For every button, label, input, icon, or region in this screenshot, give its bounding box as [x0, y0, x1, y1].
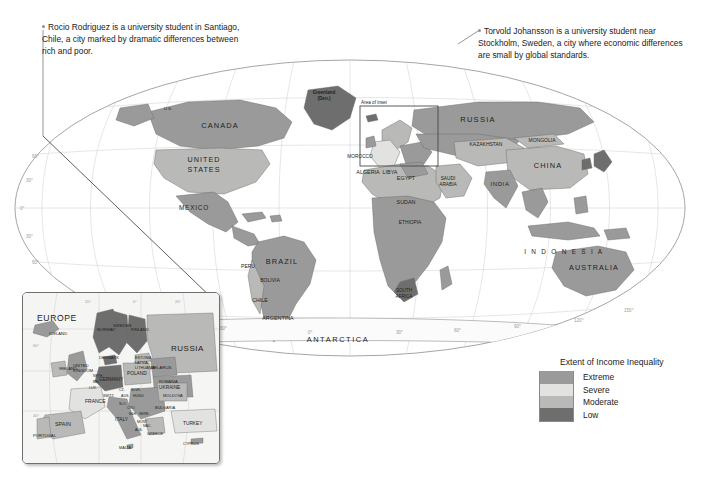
svg-text:B&H: B&H — [129, 412, 137, 416]
svg-text:PORTUGAL: PORTUGAL — [33, 433, 57, 438]
svg-text:PERU: PERU — [241, 263, 255, 269]
svg-text:ALB.: ALB. — [135, 428, 142, 432]
svg-text:20°: 20° — [85, 299, 91, 304]
callout-dot-icon — [42, 25, 45, 28]
svg-text:SAUDI: SAUDI — [441, 176, 456, 181]
svg-text:AUS.: AUS. — [121, 394, 129, 398]
svg-text:NETH.: NETH. — [93, 374, 103, 378]
legend-item-moderate: Moderate — [539, 396, 689, 409]
legend-item-extreme: Extreme — [539, 371, 689, 384]
legend-label-moderate: Moderate — [583, 397, 618, 407]
svg-text:AUSTRALIA: AUSTRALIA — [569, 263, 619, 272]
svg-text:CZ.: CZ. — [119, 388, 125, 392]
europe-inset-svg: 20° 0° 20° 60° 40° — [23, 293, 219, 463]
svg-text:0°: 0° — [20, 206, 25, 211]
svg-text:I N D O N E S I A: I N D O N E S I A — [524, 248, 604, 255]
svg-text:0°: 0° — [308, 330, 313, 335]
svg-text:STATES: STATES — [188, 165, 221, 174]
svg-text:30°: 30° — [26, 234, 33, 239]
svg-text:SWEDEN: SWEDEN — [113, 323, 131, 328]
svg-text:RUSSIA: RUSSIA — [460, 115, 495, 124]
callout-torvold: Torvold Johansson is a university studen… — [478, 26, 693, 62]
svg-text:DENMARK: DENMARK — [99, 355, 119, 360]
svg-text:60°: 60° — [454, 328, 461, 333]
svg-text:MONGOLIA: MONGOLIA — [529, 137, 557, 143]
callout-dot-icon — [478, 29, 481, 32]
svg-text:ETHIOPIA: ETHIOPIA — [399, 220, 422, 225]
svg-text:AFRICA: AFRICA — [396, 294, 414, 299]
svg-text:MOROCCO: MOROCCO — [347, 154, 373, 159]
svg-text:UKRAINE: UKRAINE — [159, 385, 180, 390]
svg-text:CYPRUS: CYPRUS — [183, 442, 199, 446]
svg-text:ESTONIA: ESTONIA — [135, 356, 152, 360]
svg-text:KINGDOM: KINGDOM — [73, 368, 94, 373]
svg-text:LIBYA: LIBYA — [383, 169, 398, 175]
svg-text:BULGARIA: BULGARIA — [155, 405, 176, 410]
svg-text:150°: 150° — [624, 308, 634, 313]
svg-text:Greenland: Greenland — [313, 90, 336, 95]
legend-swatch-low — [539, 408, 574, 422]
svg-text:SPAIN: SPAIN — [55, 421, 71, 427]
legend: Extent of Income Inequality Extreme Seve… — [539, 357, 689, 421]
svg-text:(Den.): (Den.) — [317, 96, 330, 101]
svg-text:SUDAN: SUDAN — [397, 199, 416, 205]
svg-text:LITHUANIA: LITHUANIA — [135, 366, 155, 370]
svg-text:BEL.: BEL. — [93, 380, 100, 384]
svg-text:RUSSIA: RUSSIA — [171, 344, 204, 353]
svg-text:ITALY: ITALY — [115, 416, 129, 422]
callout-torvold-text: Torvold Johansson is a university studen… — [478, 26, 683, 60]
svg-text:60°: 60° — [32, 260, 39, 265]
svg-text:MALTA: MALTA — [119, 446, 132, 450]
legend-swatch-extreme — [539, 371, 574, 384]
legend-label-low: Low — [583, 410, 598, 420]
svg-text:EGYPT: EGYPT — [397, 175, 416, 181]
callout-rocio: Rocio Rodriguez is a university student … — [42, 22, 247, 58]
svg-text:TURKEY: TURKEY — [183, 421, 203, 426]
svg-text:BOLIVIA: BOLIVIA — [260, 277, 280, 283]
callout-rocio-text: Rocio Rodriguez is a university student … — [42, 22, 239, 56]
svg-text:120°: 120° — [574, 318, 584, 323]
svg-text:ARABIA: ARABIA — [439, 182, 457, 187]
svg-text:GREECE: GREECE — [147, 432, 164, 436]
svg-text:90°: 90° — [514, 324, 521, 329]
svg-text:ICELAND: ICELAND — [49, 331, 67, 336]
svg-text:KAZAKHSTAN: KAZAKHSTAN — [470, 141, 503, 147]
legend-label-severe: Severe — [583, 385, 610, 395]
svg-text:INDIA: INDIA — [490, 181, 509, 187]
svg-text:CRO.: CRO. — [127, 406, 136, 410]
svg-text:0°: 0° — [133, 299, 137, 304]
svg-text:MEXICO: MEXICO — [179, 204, 209, 211]
svg-text:SLVK.: SLVK. — [131, 388, 141, 392]
svg-text:FINLAND: FINLAND — [131, 327, 149, 332]
svg-text:60°: 60° — [32, 154, 39, 159]
svg-text:UNITED: UNITED — [188, 155, 221, 164]
svg-text:CHILE: CHILE — [252, 297, 268, 303]
svg-text:60°: 60° — [220, 326, 227, 331]
svg-text:40°: 40° — [33, 413, 39, 418]
legend-swatch-severe — [539, 384, 574, 397]
svg-text:FRANCE: FRANCE — [85, 398, 106, 404]
svg-text:20°: 20° — [175, 299, 181, 304]
legend-item-low: Low — [539, 409, 689, 422]
svg-text:ARGENTINA: ARGENTINA — [262, 315, 294, 321]
leader-line-torvold — [458, 31, 478, 44]
svg-text:LUX.: LUX. — [89, 386, 97, 390]
svg-text:U.S.: U.S. — [164, 106, 173, 111]
svg-text:ANTARCTICA: ANTARCTICA — [307, 335, 370, 344]
svg-text:EUROPE: EUROPE — [37, 313, 77, 323]
svg-text:30°: 30° — [26, 178, 33, 183]
legend-item-severe: Severe — [539, 384, 689, 397]
legend-label-extreme: Extreme — [583, 372, 614, 382]
svg-text:SERB.: SERB. — [139, 412, 149, 416]
legend-swatch-moderate — [539, 396, 574, 409]
svg-text:SWITZ.: SWITZ. — [103, 394, 115, 398]
svg-text:POLAND: POLAND — [127, 371, 147, 376]
legend-title: Extent of Income Inequality — [560, 357, 689, 367]
svg-text:CANADA: CANADA — [201, 121, 238, 130]
svg-text:30°: 30° — [396, 330, 403, 335]
svg-text:Area of inset: Area of inset — [361, 100, 388, 105]
svg-text:ROMANIA: ROMANIA — [159, 379, 178, 384]
svg-text:ALGERIA: ALGERIA — [356, 169, 380, 175]
svg-text:CHINA: CHINA — [534, 161, 563, 170]
svg-text:MAC.: MAC. — [143, 424, 152, 428]
